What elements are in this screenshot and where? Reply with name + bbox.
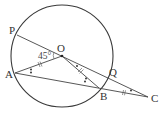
line-ob	[62, 56, 99, 88]
label-a: A	[5, 68, 13, 80]
label-c: C	[151, 92, 158, 104]
angle-mark-c	[130, 90, 132, 92]
angle-mark-o-bottom	[76, 65, 78, 67]
line-ac	[15, 73, 148, 97]
angle-mark-b	[84, 78, 87, 83]
angle-label-45: 45°	[38, 51, 52, 61]
point-o	[61, 55, 64, 58]
label-q: Q	[109, 66, 117, 78]
equal-tick-ob	[78, 68, 84, 74]
label-b: B	[100, 90, 107, 102]
angle-mark-a	[30, 69, 32, 74]
geometry-diagram: P O A B Q C 45°	[0, 0, 162, 113]
label-p: P	[9, 24, 15, 36]
label-o: O	[57, 42, 65, 54]
angle-arc-o	[53, 52, 54, 59]
line-pc	[17, 35, 148, 97]
